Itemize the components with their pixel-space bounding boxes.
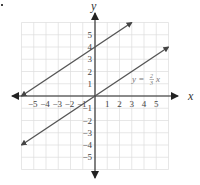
y-tick-label: 2 <box>88 67 93 77</box>
coordinate-plane: −5−4−3−2−11234554321−1−2−3−4−5 x y y = 2… <box>0 0 200 185</box>
y-tick-label: −5 <box>82 152 92 162</box>
x-tick-label: −2 <box>65 99 75 109</box>
equation-numerator: 2 <box>150 73 153 79</box>
x-tick-label: 3 <box>130 99 135 109</box>
x-tick-label: −4 <box>40 99 50 109</box>
equation-variable: x <box>155 74 160 84</box>
equation-denominator: 3 <box>149 80 153 86</box>
x-axis-label: x <box>187 89 194 103</box>
y-tick-label: 3 <box>88 54 93 64</box>
y-tick-label: −3 <box>82 128 92 138</box>
x-tick-label: 2 <box>117 99 122 109</box>
equation-prefix: y = <box>131 74 144 84</box>
x-tick-label: −3 <box>52 99 62 109</box>
y-tick-label: −1 <box>82 103 92 113</box>
y-tick-label: 5 <box>88 30 93 40</box>
x-tick-label: 4 <box>142 99 147 109</box>
x-tick-label: −5 <box>28 99 38 109</box>
x-tick-label: 1 <box>105 99 110 109</box>
y-tick-label: −4 <box>82 140 92 150</box>
x-tick-label: 5 <box>154 99 159 109</box>
y-tick-label: 1 <box>88 79 93 89</box>
y-tick-label: −2 <box>82 116 92 126</box>
y-axis-label: y <box>90 0 97 13</box>
